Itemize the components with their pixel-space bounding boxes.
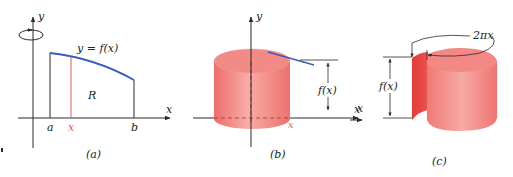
caption-c: (c) (432, 155, 447, 168)
panel-b: y x x f(x) (b) (193, 10, 361, 161)
circumference-label: 2πx (472, 29, 494, 42)
panel-c: x f(x) 2πx (c) (350, 29, 497, 168)
height-label-c: f(x) (378, 80, 398, 93)
shell-method-figure: y x y = f(x) R a x b (a) (0, 0, 513, 177)
y-axis-label: y (37, 10, 45, 23)
tick-a: a (47, 121, 54, 134)
tick-x: x (68, 121, 75, 134)
shell-cut-inner (412, 52, 428, 120)
caption-a: (a) (86, 148, 101, 161)
height-label-b: f(x) (317, 84, 337, 97)
curve-label: y = f(x) (76, 42, 118, 55)
x-axis-label-c: x (357, 102, 364, 115)
x-axis-label: x (166, 103, 173, 116)
curve-f-of-x (50, 53, 134, 80)
y-axis-label-b: y (255, 10, 263, 23)
panel-a: y x y = f(x) R a x b (a) (1, 10, 173, 161)
edge-mark (1, 148, 3, 152)
caption-b: (b) (270, 148, 286, 161)
rotation-arrow-icon (19, 30, 43, 40)
tick-b: b (131, 121, 138, 134)
shell-top (427, 48, 497, 72)
region-label: R (87, 89, 96, 102)
tick-x-b: x (288, 119, 294, 130)
